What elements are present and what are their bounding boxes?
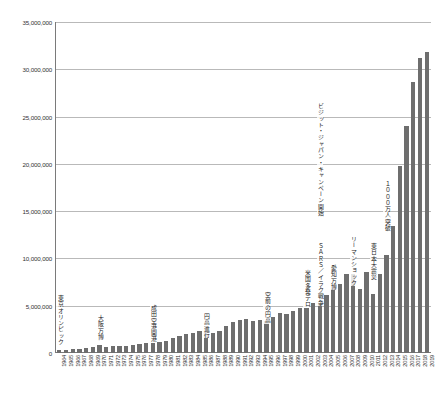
x-axis-tick-label: 1970	[101, 355, 107, 367]
y-axis-tick-label: 10,000,000	[0, 255, 52, 262]
bar	[418, 58, 422, 353]
bar	[404, 126, 408, 353]
bar	[384, 255, 388, 353]
x-axis-tick-label: 1996	[275, 355, 281, 367]
x-axis-tick-label: 1998	[288, 355, 294, 367]
x-axis-tick-label: 1983	[188, 355, 194, 367]
x-axis-tick-label: 1979	[162, 355, 168, 367]
bar	[258, 320, 262, 353]
y-axis-tick-label: 25,000,000	[0, 113, 52, 120]
bar	[111, 346, 115, 353]
bar	[331, 289, 335, 353]
bar	[197, 331, 201, 353]
x-axis-tick-label: 1994	[262, 355, 268, 367]
bar	[171, 338, 175, 353]
bar	[64, 350, 68, 353]
x-axis-tick-label: 1993	[255, 355, 261, 367]
bar	[57, 350, 61, 353]
bar	[104, 347, 108, 353]
chart-annotation: １０００万人突破	[383, 181, 389, 231]
bar	[278, 313, 282, 353]
bar	[224, 326, 228, 353]
bar	[271, 317, 275, 353]
x-axis-tick-label: 1992	[248, 355, 254, 367]
bar	[344, 274, 348, 353]
x-axis-tick-label: 2012	[382, 355, 388, 367]
x-axis-tick-label: 1976	[141, 355, 147, 367]
bar	[304, 308, 308, 353]
bar	[184, 334, 188, 353]
bar	[117, 346, 121, 353]
chart-annotation: 成田空港開港	[150, 305, 156, 343]
x-axis-tick-label: 2013	[389, 355, 395, 367]
x-axis-tick-label: 2010	[369, 355, 375, 367]
x-axis-tick-label: 1975	[135, 355, 141, 367]
chart-annotation: 東日本大震災	[370, 243, 376, 281]
y-axis-tick-label: 30,000,000	[0, 66, 52, 73]
x-axis-tick-label: 1982	[182, 355, 188, 367]
bar	[378, 274, 382, 353]
bar	[364, 272, 368, 353]
x-axis-tick-label: 1977	[148, 355, 154, 367]
chart-annotation: 米国多発テロ	[303, 270, 309, 308]
x-axis-tick-label: 2007	[349, 355, 355, 367]
y-axis-tick-label: 0	[0, 350, 52, 357]
x-axis-tick-label: 2001	[308, 355, 314, 367]
bar	[157, 342, 161, 353]
bar	[91, 347, 95, 353]
x-axis-tick-label: 1985	[202, 355, 208, 367]
bar	[391, 226, 395, 353]
bar	[251, 321, 255, 353]
x-axis-tick-label: 1986	[208, 355, 214, 367]
x-axis-tick-label: 2003	[322, 355, 328, 367]
x-axis-tick-label: 1966	[75, 355, 81, 367]
x-axis-tick-label: 2002	[315, 355, 321, 367]
x-axis-tick-label: 2011	[375, 355, 381, 366]
bar-chart: 35,000,00030,000,00025,000,00020,000,000…	[0, 0, 435, 398]
bar	[371, 294, 375, 353]
x-axis-tick-label: 1981	[175, 355, 181, 367]
chart-annotation: 大阪万博	[96, 315, 102, 340]
x-axis-tick-label: 1991	[242, 355, 248, 367]
x-axis-tick-label: 2017	[415, 355, 421, 367]
y-axis-tick-label: 5,000,000	[0, 302, 52, 309]
chart-annotation: ビジット・ジャパン・キャンペーン開始	[317, 103, 323, 216]
x-axis-tick-label: 1969	[95, 355, 101, 367]
x-axis-tick-label: 2005	[335, 355, 341, 367]
bar	[398, 166, 402, 353]
bar	[164, 341, 168, 353]
x-axis-tick-label: 1997	[282, 355, 288, 367]
bar	[71, 349, 75, 353]
x-axis-tick-label: 2006	[342, 355, 348, 367]
x-axis-tick-label: 1990	[235, 355, 241, 367]
x-axis-tick-label: 2009	[362, 355, 368, 367]
bar	[131, 345, 135, 353]
bar	[137, 344, 141, 353]
bar	[425, 52, 429, 354]
x-axis-tick-label: 2015	[402, 355, 408, 367]
bar	[211, 333, 215, 353]
x-axis-tick-label: 1995	[268, 355, 274, 367]
bar	[318, 304, 322, 353]
bar	[77, 349, 81, 354]
bar	[238, 320, 242, 353]
bar	[284, 314, 288, 353]
x-axis-labels: 1964196519661967196819691970197119721973…	[56, 355, 431, 397]
x-axis-tick-label: 1987	[215, 355, 221, 367]
bar	[97, 345, 101, 353]
x-axis-tick-label: 1964	[61, 355, 67, 367]
x-axis-tick-label: 1974	[128, 355, 134, 367]
y-axis-tick-label: 20,000,000	[0, 160, 52, 167]
x-axis-tick-label: 1988	[222, 355, 228, 367]
bar	[264, 321, 268, 353]
bar	[411, 82, 415, 353]
x-axis-tick-label: 1965	[68, 355, 74, 367]
bar	[84, 348, 88, 353]
chart-annotation: 愛知万博	[330, 265, 336, 290]
bar	[358, 289, 362, 353]
x-axis-tick-label: 1968	[88, 355, 94, 367]
x-axis-tick-label: 2004	[328, 355, 334, 367]
bar	[177, 336, 181, 353]
bar	[324, 295, 328, 353]
x-axis-tick-label: 2019	[429, 355, 435, 367]
